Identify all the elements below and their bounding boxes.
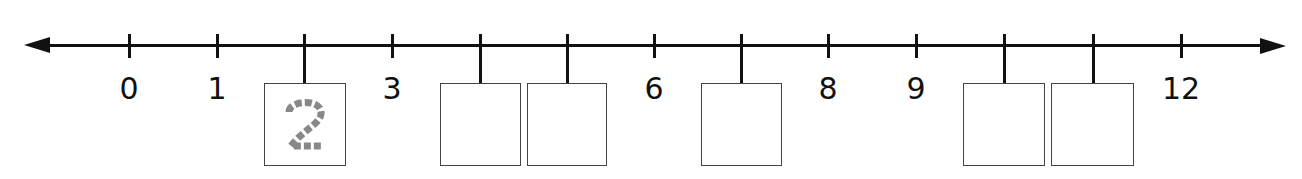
- tick-mark: [303, 34, 306, 83]
- tick-label: 8: [818, 72, 837, 106]
- tick-mark: [391, 34, 394, 58]
- tick-mark: [740, 34, 743, 83]
- tick-label: 3: [382, 72, 401, 106]
- tick-mark: [827, 34, 830, 58]
- tick-mark: [216, 34, 219, 58]
- tick-mark: [479, 34, 482, 83]
- tick-mark: [653, 34, 656, 58]
- tick-mark: [1180, 34, 1183, 58]
- answer-box[interactable]: [527, 83, 607, 166]
- tick-label: 12: [1162, 72, 1200, 106]
- answer-box[interactable]: [963, 83, 1045, 166]
- dashed-digit-two-icon: [281, 96, 331, 156]
- tick-mark: [1092, 34, 1095, 83]
- number-line-diagram: 01368912: [0, 0, 1302, 179]
- tick-label: 9: [906, 72, 925, 106]
- answer-box-example[interactable]: [264, 83, 346, 166]
- tick-label: 0: [119, 72, 138, 106]
- right-arrow-icon: [1260, 38, 1286, 54]
- tick-label: 1: [207, 72, 226, 106]
- tick-mark: [566, 34, 569, 83]
- tick-mark: [128, 34, 131, 58]
- tick-mark: [1003, 34, 1006, 83]
- answer-box[interactable]: [440, 83, 521, 166]
- tick-mark: [915, 34, 918, 58]
- answer-box[interactable]: [701, 83, 782, 166]
- answer-box[interactable]: [1051, 83, 1134, 166]
- tick-label: 6: [644, 72, 663, 106]
